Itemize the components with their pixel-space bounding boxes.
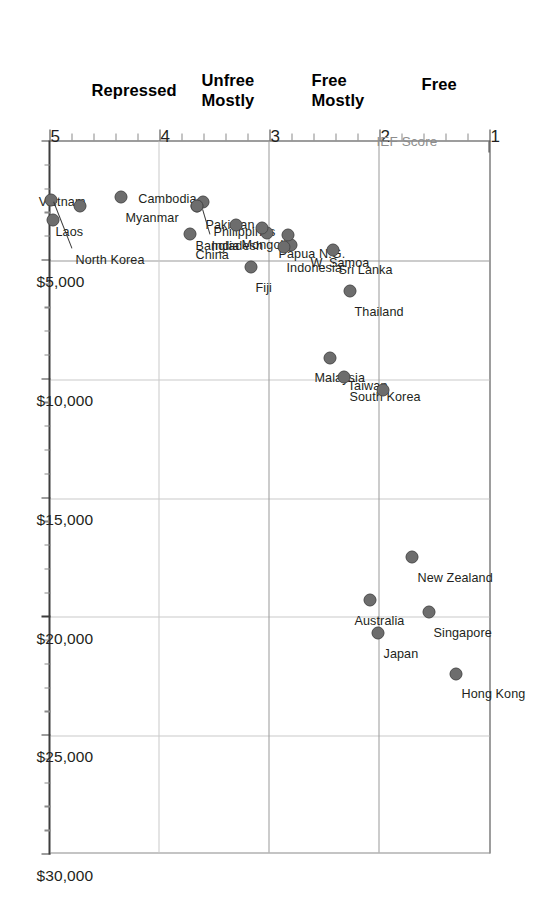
value-tick-mark [44,663,50,664]
value-tick-mark [44,782,50,783]
value-tick-mark [44,449,50,450]
data-point [244,260,257,273]
value-tick-10000: $10,000 [36,391,93,409]
score-tick-1: 1 [490,126,500,146]
score-tick-mark [71,133,72,140]
point-label: New Zealand [417,570,492,584]
value-tick-mark [44,710,50,711]
value-tick-15000: $15,000 [36,510,93,528]
score-tick-mark [225,133,226,140]
chart-stage: Hong KongSingaporeNew ZealandJapanAustra… [0,0,541,905]
value-tick-mark [44,164,50,165]
value-tick-mark [44,592,50,593]
gridline-20000 [50,616,489,617]
data-point [114,190,127,203]
value-tick-mark [44,544,50,545]
data-point [371,626,384,639]
score-tick-mark [181,133,182,140]
point-label: Myanmar [126,210,179,224]
data-point [406,550,419,563]
score-tick-mark [247,133,248,140]
value-tick-mark [41,853,50,854]
value-tick-25000: $25,000 [36,747,93,765]
value-tick-mark [44,687,50,688]
point-label: China [195,247,228,261]
score-tick-mark [115,133,116,140]
data-point [376,383,389,396]
vtick-score-1 [488,141,489,152]
data-point [326,243,339,256]
data-point [46,213,59,226]
value-tick-mark [41,497,50,498]
value-tick-mark [41,259,50,260]
data-point [337,370,350,383]
point-label: Laos [55,224,83,238]
score-tick-mark [357,133,358,140]
value-tick-mark [44,354,50,355]
point-label: Indonesia [286,260,342,274]
gridline-10000 [50,379,489,380]
gridline-25000 [50,735,489,736]
value-tick-mark [44,211,50,212]
value-tick-mark [44,306,50,307]
value-tick-mark [44,425,50,426]
data-point [190,199,203,212]
value-tick-mark [41,615,50,616]
gridline-score-4 [158,141,159,852]
point-label: Hong Kong [461,686,525,700]
band-label-mostly-unfree-1: Mostly [201,90,254,108]
point-label: Cambodia [138,191,196,205]
score-tick-mark [93,133,94,140]
point-label: Singapore [434,625,492,639]
value-tick-mark [44,473,50,474]
value-tick-mark [41,378,50,379]
score-tick-3: 3 [270,126,280,146]
data-point [281,228,294,241]
score-tick-mark [137,133,138,140]
point-label: Thailand [354,304,403,318]
value-tick-mark [41,734,50,735]
data-point [183,227,196,240]
data-point [277,240,290,253]
value-tick-mark [44,805,50,806]
score-tick-mark [467,133,468,140]
band-label-mostly-free-2: Free [311,70,346,88]
data-point [450,667,463,680]
band-label-mostly-free-1: Mostly [311,90,364,108]
value-tick-mark [44,568,50,569]
data-point [422,605,435,618]
data-point [230,218,243,231]
data-point [343,284,356,297]
score-axis-title: IEF Score [376,133,437,148]
band-label-free: Free [421,74,456,92]
data-point [323,351,336,364]
point-label: Fiji [255,280,272,294]
data-point [73,199,86,212]
score-tick-5: 5 [50,126,60,146]
score-tick-mark [445,133,446,140]
value-tick-mark [41,140,50,141]
point-label: Australia [354,613,404,627]
point-label: North Korea [75,252,144,266]
score-tick-4: 4 [160,126,170,146]
value-tick-mark [44,235,50,236]
data-point [255,221,268,234]
score-tick-mark [291,133,292,140]
value-tick-30000: $30,000 [36,866,93,884]
data-point [363,593,376,606]
value-tick-mark [44,188,50,189]
value-tick-mark [44,330,50,331]
score-tick-mark [335,133,336,140]
band-label-mostly-unfree-2: Unfree [201,70,254,88]
value-tick-mark [44,829,50,830]
band-label-repressed: Repressed [91,80,176,98]
value-tick-5000: $5,000 [36,272,84,290]
gridline-score-2 [378,141,379,852]
score-tick-mark [313,133,314,140]
score-tick-mark [203,133,204,140]
point-label: Japan [383,646,418,660]
gridline-15000 [50,498,489,499]
value-tick-20000: $20,000 [36,629,93,647]
